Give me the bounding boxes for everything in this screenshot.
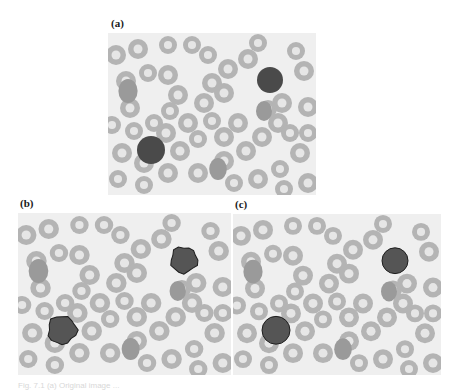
dense-red-blood-cell <box>334 338 352 360</box>
blood-smear-image <box>233 214 441 375</box>
panel-c-micrograph <box>233 214 441 375</box>
lymphocyte-circular-contour <box>382 248 408 274</box>
dense-red-blood-cell <box>122 338 140 360</box>
dense-red-blood-cell <box>209 158 227 180</box>
lymphocyte-irregular-contour <box>171 247 198 274</box>
lymphocyte-circular-contour <box>262 316 290 344</box>
panel-b-micrograph <box>18 213 231 375</box>
blood-smear-image <box>108 33 316 195</box>
lymphocyte-nucleus <box>137 136 165 164</box>
panel-label-a: (a) <box>111 17 124 29</box>
dense-red-blood-cell <box>256 101 272 121</box>
figure-caption: Fig. 7.1 (a) Original image ... <box>18 381 119 390</box>
blood-smear-image <box>18 213 231 375</box>
panel-label-b: (b) <box>20 197 33 209</box>
dense-red-blood-cell <box>381 282 397 302</box>
dense-red-blood-cell <box>29 259 49 283</box>
panel-label-c: (c) <box>235 198 247 210</box>
dense-red-blood-cell <box>170 281 186 301</box>
lymphocyte-nucleus <box>257 67 283 93</box>
dense-red-blood-cell <box>118 79 137 103</box>
dense-red-blood-cell <box>243 260 262 284</box>
panel-a-micrograph <box>108 33 316 195</box>
